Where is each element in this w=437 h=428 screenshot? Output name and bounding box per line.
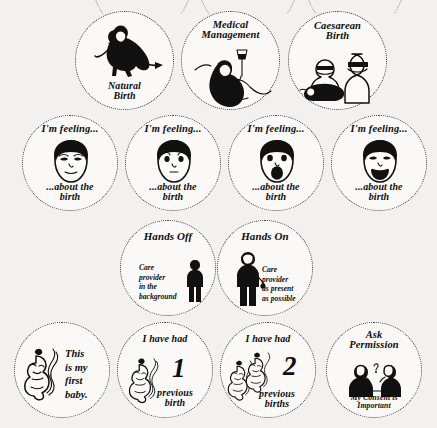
badge-feeling-shocked[interactable]: I'm feeling... ...about the birth <box>228 115 324 211</box>
badge-caption: My Consent is Important <box>327 394 421 410</box>
care-provider-holding-hand-icon <box>234 251 264 307</box>
badge-caption: ...about the birth <box>23 182 117 202</box>
badge-caption: I have had <box>118 334 212 344</box>
worried-face-icon <box>151 138 197 186</box>
two-fetuses-icon <box>245 349 279 393</box>
badge-caption: ...about the birth <box>126 182 220 202</box>
badge-feeling-calm[interactable]: I'm feeling... ...about the birth <box>22 115 118 211</box>
fetus-icon <box>23 345 67 400</box>
badge-caption: previous births <box>241 389 313 409</box>
badge-caesarean-birth[interactable]: Caesarean Birth <box>288 11 387 110</box>
badge-number: 1 <box>172 355 186 382</box>
badge-feeling-happy[interactable]: I'm feeling... ...about the birth <box>331 115 427 211</box>
kneeling-pregnant-person-icon <box>92 24 162 76</box>
badge-medical-management[interactable]: Medical Management <box>181 11 280 110</box>
badge-caption: Medical Management <box>182 20 279 41</box>
badge-two-previous-births[interactable]: I have had 2 previous births <box>220 322 316 418</box>
happy-face-icon <box>357 138 403 186</box>
reclining-person-with-iv-drip-icon <box>193 48 271 106</box>
calm-face-icon <box>48 138 94 186</box>
badge-caption: Natural Birth <box>76 81 173 101</box>
badge-caption: Hands Off <box>121 231 215 242</box>
badge-natural-birth[interactable]: Natural Birth <box>75 11 174 110</box>
badge-caption: I have had <box>221 334 315 344</box>
badge-hands-on[interactable]: Hands On Care provider as present as pos… <box>217 220 313 316</box>
badge-caption: I'm feeling... <box>126 124 220 135</box>
badge-one-previous-birth[interactable]: I have had 1 previous birth <box>117 322 213 418</box>
badge-caption: Ask Permission <box>327 330 421 351</box>
badge-caption: Hands On <box>218 231 312 242</box>
badge-caption: ...about the birth <box>332 182 426 202</box>
badge-ask-permission[interactable]: Ask Permission My Consent is Important <box>326 322 422 418</box>
badge-hands-off[interactable]: Hands Off Care provider in the backgroun… <box>120 220 216 316</box>
badge-side-text: This is my first baby. <box>65 347 105 402</box>
badge-feeling-worried[interactable]: I'm feeling... ...about the birth <box>125 115 221 211</box>
two-masked-surgeons-icon <box>299 52 379 104</box>
sticker-sheet: Natural Birth Medical Management Caesare… <box>0 0 437 428</box>
badge-caption: I'm feeling... <box>229 124 323 135</box>
badge-caption: I'm feeling... <box>23 124 117 135</box>
badge-number: 2 <box>283 353 297 380</box>
standing-care-provider-icon <box>185 259 205 303</box>
badge-first-baby[interactable]: This is my first baby. <box>14 322 110 418</box>
badge-side-text: Care provider as present as possible <box>262 265 310 304</box>
badge-side-text: Care provider in the background <box>139 263 185 302</box>
badge-caption: I'm feeling... <box>332 124 426 135</box>
badge-caption: Caesarean Birth <box>289 21 386 42</box>
shocked-face-icon <box>254 138 300 186</box>
badge-caption: ...about the birth <box>229 182 323 202</box>
badge-caption: previous birth <box>140 388 210 408</box>
